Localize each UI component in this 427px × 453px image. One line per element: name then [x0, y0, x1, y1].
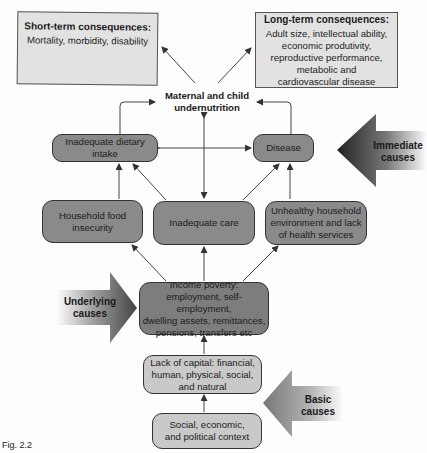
underlying-line-2: causes: [62, 308, 118, 320]
income-line-4: pensions, transfers etc: [156, 327, 253, 339]
environment-line-2: environment and lack: [270, 217, 361, 229]
income-poverty-box: Income poverty: employment, self-employm…: [139, 282, 269, 335]
underlying-line-1: Underlying: [62, 296, 118, 308]
inadequate-dietary-intake-box: Inadequate dietary intake: [52, 134, 158, 162]
disease-label: Disease: [266, 142, 301, 154]
capital-line-2: human, physical, social,: [152, 369, 254, 381]
long-term-title: Long-term consequences:: [264, 14, 389, 26]
unhealthy-environment-box: Unhealthy household environment and lack…: [265, 201, 367, 245]
basic-line-1: Basic: [295, 394, 341, 406]
long-term-line-3: reproductive performance,: [271, 52, 383, 64]
long-term-line-4: metabolic and: [297, 64, 357, 76]
figure-caption: Fig. 2.2: [2, 440, 32, 450]
income-line-1: Income poverty:: [170, 279, 238, 291]
disease-box: Disease: [253, 134, 314, 162]
income-line-3: dwelling assets, remittances,: [143, 315, 266, 327]
care-label: Inadequate care: [169, 217, 238, 229]
underlying-causes-label: Underlying causes: [62, 296, 118, 320]
long-term-line-2: economic produtivity,: [282, 40, 371, 52]
short-term-title: Short-term consequences:: [24, 20, 151, 33]
environment-line-1: Unhealthy household: [271, 205, 361, 217]
household-food-insecurity-box: Household food insecurity: [42, 200, 143, 243]
capital-line-3: and natural: [178, 381, 226, 393]
dietary-intake-label: Inadequate dietary intake: [53, 136, 157, 160]
income-line-2: employment, self-employment,: [140, 291, 268, 315]
inadequate-care-box: Inadequate care: [153, 201, 255, 245]
short-term-body: Mortality, morbidity, disability: [27, 34, 148, 47]
food-line-2: insecurity: [72, 222, 113, 234]
outcome-line-1: Maternal and child: [150, 90, 264, 102]
immediate-line-2: causes: [370, 152, 426, 164]
maternal-child-undernutrition-label: Maternal and child undernutrition: [150, 90, 264, 114]
food-line-1: Household food: [59, 210, 126, 222]
lack-of-capital-box: Lack of capital: financial, human, physi…: [143, 355, 262, 394]
social-economic-political-context-box: Social, economic, and political context: [152, 413, 262, 449]
immediate-line-1: Immediate: [370, 140, 426, 152]
undernutrition-framework-diagram: Short-term consequences: Mortality, morb…: [0, 0, 427, 453]
environment-line-3: of health services: [279, 229, 354, 241]
context-line-2: and political context: [165, 431, 249, 443]
long-term-line-5: cardiovascular disease: [278, 76, 376, 88]
outcome-line-2: undernutrition: [150, 102, 264, 114]
capital-line-1: Lack of capital: financial,: [150, 357, 255, 369]
short-term-consequences-box: Short-term consequences: Mortality, morb…: [17, 11, 159, 85]
basic-line-2: causes: [295, 406, 341, 418]
long-term-consequences-box: Long-term consequences: Adult size, inte…: [255, 12, 398, 88]
context-line-1: Social, economic,: [169, 419, 244, 431]
immediate-causes-label: Immediate causes: [370, 140, 426, 164]
long-term-line-1: Adult size, intellectual ability,: [266, 28, 387, 40]
basic-causes-label: Basic causes: [295, 394, 341, 418]
